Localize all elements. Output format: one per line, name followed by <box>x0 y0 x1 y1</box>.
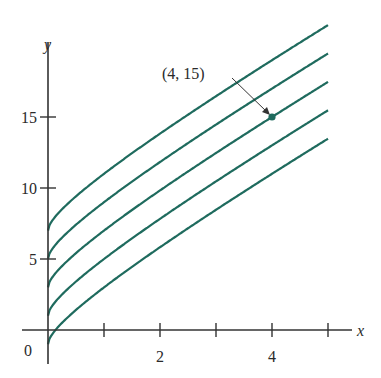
origin-label: 0 <box>24 342 32 359</box>
svg-text:15: 15 <box>21 109 37 126</box>
annotation: (4, 15) <box>162 65 276 121</box>
svg-text:(4, 15): (4, 15) <box>162 65 205 83</box>
svg-text:4: 4 <box>268 348 276 365</box>
chart: 24 51015 y x 0 (4, 15) <box>0 0 381 378</box>
y-ticks: 51015 <box>21 109 56 268</box>
y-axis-label: y <box>42 36 52 54</box>
svg-text:5: 5 <box>29 251 37 268</box>
annotation-point <box>268 113 275 120</box>
x-axis-label: x <box>356 322 364 339</box>
svg-text:10: 10 <box>21 180 37 197</box>
svg-text:2: 2 <box>156 348 164 365</box>
